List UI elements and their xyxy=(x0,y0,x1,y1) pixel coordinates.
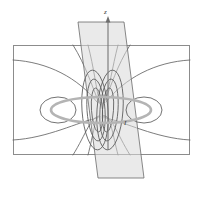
z-axis-arrowhead xyxy=(106,16,111,23)
figure-container: z I xyxy=(0,0,203,198)
current-label: I xyxy=(124,120,126,127)
magnetic-field-diagram xyxy=(0,0,203,198)
z-axis-label: z xyxy=(104,9,107,16)
